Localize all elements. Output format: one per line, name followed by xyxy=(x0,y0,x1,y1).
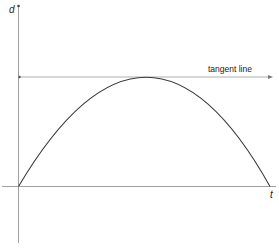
y-axis-label: d xyxy=(9,4,15,15)
tangent-left-endpoint-icon xyxy=(18,76,20,78)
tangent-arrowhead-icon xyxy=(268,75,273,79)
tangent-line-label: tangent line xyxy=(208,64,252,74)
distance-time-diagram: d t tangent line xyxy=(0,0,279,251)
x-axis-label: t xyxy=(270,189,273,200)
y-axis-arrow-icon xyxy=(17,5,20,8)
diagram-canvas xyxy=(0,0,279,251)
distance-curve xyxy=(19,77,271,186)
